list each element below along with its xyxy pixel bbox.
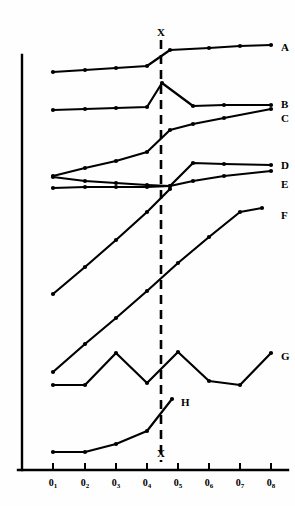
data-point-h-3 xyxy=(114,442,118,446)
data-point-c-8 xyxy=(269,107,273,111)
chart-plot-area xyxy=(0,0,295,506)
data-point-d-2 xyxy=(83,179,87,183)
series-label-d: D xyxy=(281,160,289,171)
data-point-h-1 xyxy=(51,450,55,454)
data-point-b-4 xyxy=(145,105,149,109)
x-tick-label-8: 08 xyxy=(267,478,276,488)
data-point-c-5 xyxy=(168,128,172,132)
series-line-f xyxy=(53,208,262,372)
data-point-h-4 xyxy=(145,429,149,433)
data-point-h-2 xyxy=(83,450,87,454)
data-point-c-2 xyxy=(83,166,87,170)
data-point-d-3 xyxy=(114,181,118,185)
series-label-e: E xyxy=(281,179,288,190)
data-point-a-5 xyxy=(168,48,172,52)
data-point-b-2 xyxy=(83,107,87,111)
data-point-d-7 xyxy=(222,162,226,166)
series-label-h: H xyxy=(181,397,190,408)
data-point-h-5 xyxy=(170,397,174,401)
series-label-c: C xyxy=(281,113,289,124)
x-tick-label-2: 02 xyxy=(81,478,90,488)
x-tick-label-6: 06 xyxy=(205,478,214,488)
data-point-b-6 xyxy=(191,104,195,108)
data-point-e-3 xyxy=(114,185,118,189)
data-point-b-5 xyxy=(160,81,164,85)
series-label-b: B xyxy=(281,99,288,110)
x-tick-label-1: 01 xyxy=(49,478,58,488)
chart-axes xyxy=(18,55,288,470)
data-point-d-1 xyxy=(51,175,55,179)
series-h xyxy=(51,397,174,454)
x-tick-label-7: 07 xyxy=(236,478,245,488)
series-label-g: G xyxy=(281,351,290,362)
x-tick-label-3: 03 xyxy=(112,478,121,488)
data-point-f-8 xyxy=(260,206,264,210)
data-point-c-4 xyxy=(145,150,149,154)
data-point-b-1 xyxy=(51,108,55,112)
data-point-c-3 xyxy=(114,159,118,163)
data-point-g-4 xyxy=(145,381,149,385)
data-point-a-4 xyxy=(145,64,149,68)
marker-label-top: X xyxy=(157,27,165,38)
data-point-e2-5 xyxy=(168,187,172,191)
data-point-e-8 xyxy=(269,169,273,173)
data-point-b-3 xyxy=(114,106,118,110)
series-e2 xyxy=(51,187,172,296)
data-point-e2-1 xyxy=(51,292,55,296)
data-point-a-8 xyxy=(269,43,273,47)
data-point-e-4 xyxy=(145,185,149,189)
data-point-g-6 xyxy=(207,379,211,383)
x-tick-label-4: 04 xyxy=(143,478,152,488)
data-point-d-8 xyxy=(269,163,273,167)
data-point-c-6 xyxy=(191,122,195,126)
data-point-a-7 xyxy=(238,44,242,48)
series-f xyxy=(51,206,264,374)
data-point-g-3 xyxy=(114,351,118,355)
data-point-e-2 xyxy=(83,185,87,189)
series-line-e2 xyxy=(53,189,170,294)
data-point-e-6 xyxy=(191,179,195,183)
data-point-e2-2 xyxy=(83,265,87,269)
data-point-g-2 xyxy=(83,383,87,387)
series-line-h xyxy=(53,399,172,452)
data-point-e-1 xyxy=(51,186,55,190)
data-point-g-5 xyxy=(176,350,180,354)
data-point-b-7 xyxy=(222,103,226,107)
data-point-f-6 xyxy=(207,235,211,239)
marker-label-bottom: X xyxy=(157,448,165,459)
series-label-f: F xyxy=(281,210,288,221)
data-point-f-2 xyxy=(83,342,87,346)
data-point-f-7 xyxy=(238,210,242,214)
data-point-g-8 xyxy=(269,351,273,355)
data-point-c-7 xyxy=(222,116,226,120)
data-point-f-5 xyxy=(176,261,180,265)
data-point-e2-3 xyxy=(114,238,118,242)
data-point-a-3 xyxy=(114,66,118,70)
x-tick-label-5: 05 xyxy=(174,478,183,488)
data-point-a-1 xyxy=(51,70,55,74)
data-point-f-4 xyxy=(145,289,149,293)
data-point-f-3 xyxy=(114,316,118,320)
chart-figure: ABCDEFGHXX0102030405060708 xyxy=(0,0,295,506)
series-label-a: A xyxy=(281,42,289,53)
data-point-g-1 xyxy=(51,383,55,387)
data-point-b-8 xyxy=(269,103,273,107)
data-point-d-6 xyxy=(191,161,195,165)
data-point-g-7 xyxy=(238,383,242,387)
data-point-a-6 xyxy=(207,46,211,50)
data-point-e2-4 xyxy=(145,210,149,214)
data-point-e-7 xyxy=(222,174,226,178)
data-point-a-2 xyxy=(83,68,87,72)
data-point-f-1 xyxy=(51,370,55,374)
